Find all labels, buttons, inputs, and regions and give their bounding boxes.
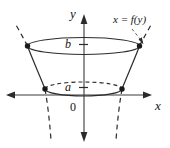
y-axis-label: y <box>70 7 76 20</box>
curve-equation-text: x = f(y) <box>113 13 146 25</box>
lower-right-dashed-extension <box>116 89 122 140</box>
vertex-dot-upper-left <box>25 43 30 48</box>
y-axis-arrow-up <box>81 14 88 24</box>
upper-right-dashed-extension <box>140 25 152 46</box>
y-axis-arrow-down <box>81 132 88 142</box>
upper-bound-label-b: b <box>65 38 71 50</box>
x-axis-label: x <box>155 99 161 112</box>
left-generating-curve <box>28 46 46 89</box>
vertex-dot-lower-left <box>42 86 47 91</box>
origin-label: 0 <box>70 101 76 113</box>
curve-equation-label: x = f(y) <box>113 14 146 25</box>
axis-group <box>6 14 152 142</box>
lower-bound-label-a: a <box>65 81 71 93</box>
upper-left-dashed-extension <box>16 25 28 46</box>
vertex-dot-lower-right <box>119 86 124 91</box>
right-generating-curve <box>122 46 140 89</box>
vertex-dot-upper-right <box>137 43 142 48</box>
x-axis-arrow-right <box>143 92 152 99</box>
lower-left-dashed-extension <box>45 89 51 140</box>
revolution-solid-figure: y x 0 b a x = f(y) <box>0 0 170 148</box>
x-axis-arrow-left <box>6 92 15 99</box>
